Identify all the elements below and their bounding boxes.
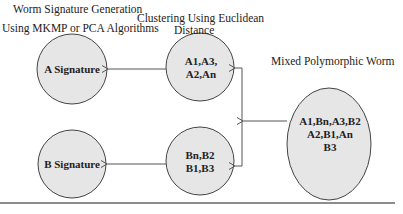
mixed-worm-line1: A1,Bn,A3,B2 (299, 115, 360, 128)
signature-generation-title-line2: Using MKMP or PCA Algorithms (2, 22, 159, 35)
clustering-title-line2: Distance (174, 24, 214, 37)
b-cluster-line1: Bn,B2 (185, 149, 214, 162)
a-cluster-line1: A1,A3, (185, 55, 217, 68)
mixed-worm-line3: B3 (299, 141, 360, 154)
mixed-worm-line2: A2,B1,An (299, 128, 360, 141)
a-signature-label: A Signature (44, 63, 100, 76)
mixed-worm-title: Mixed Polymorphic Worm (271, 55, 394, 68)
b-cluster-label: Bn,B2 B1,B3 (185, 149, 214, 175)
b-signature-label: B Signature (44, 158, 100, 171)
signature-generation-title-line1: Worm Signature Generation (13, 3, 142, 16)
mixed-worm-label: A1,Bn,A3,B2 A2,B1,An B3 (299, 115, 360, 154)
a-cluster-line2: A2,An (185, 68, 217, 81)
a-cluster-label: A1,A3, A2,An (185, 55, 217, 81)
b-cluster-line2: B1,B3 (185, 162, 214, 175)
